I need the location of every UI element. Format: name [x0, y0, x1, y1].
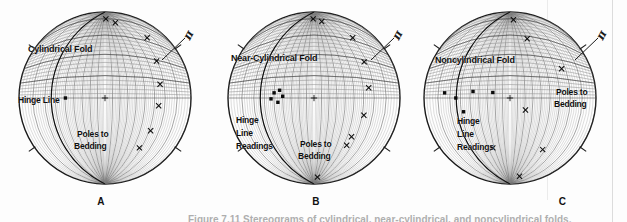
panel-a-hinge-label: Hinge Line — [18, 96, 59, 105]
panel-b-poles-label-line2: Bedding — [298, 152, 331, 161]
panel-c-hinge-label-line2: Line — [457, 130, 474, 139]
figure-caption: Figure 7.11 Stereograms of cylindrical, … — [188, 214, 571, 222]
panel-a-poles-label-line1: Poles to — [77, 130, 108, 139]
panel-a-title: Cylindrical Fold — [28, 45, 92, 55]
panel-b-hinge-label-line1: Hinge — [236, 116, 259, 125]
figure-caption-strip: Figure 7.11 Stereograms of cylindrical, … — [0, 214, 627, 222]
panel-c: Noncylindrical Fold Hinge Line Readings … — [418, 0, 627, 222]
panel-a: Cylindrical Fold Hinge Line Poles to Bed… — [0, 0, 210, 222]
panel-c-hinge-label-line1: Hinge — [457, 117, 480, 126]
stereonet-c — [421, 9, 599, 187]
panel-b-hinge-label-line2: Line — [236, 129, 253, 138]
figure-root: Cylindrical Fold Hinge Line Poles to Bed… — [0, 0, 627, 222]
panel-c-poles-label-line2: Bedding — [554, 100, 587, 109]
panel-c-title: Noncylindrical Fold — [435, 56, 515, 66]
panel-b-hinge-label-line3: Readings — [236, 142, 273, 151]
panel-b-poles-label-line1: Poles to — [300, 140, 331, 149]
panel-c-poles-label-line1: Poles to — [556, 88, 587, 97]
panel-b-title: Near-Cylindrical Fold — [231, 54, 317, 64]
panel-a-poles-label-line2: Bedding — [74, 142, 107, 151]
panel-c-hinge-label-line3: Readings — [457, 143, 494, 152]
panel-letter-c: C — [458, 196, 627, 207]
panel-letter-b: B — [212, 196, 420, 207]
panel-b: Near-Cylindrical Fold Hinge Line Reading… — [210, 0, 418, 222]
stereonet-svg-c — [421, 9, 599, 187]
panel-letter-a: A — [0, 196, 206, 207]
